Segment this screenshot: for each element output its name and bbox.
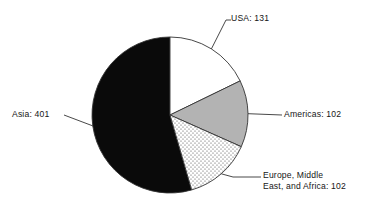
leader-line-usa [211,20,231,49]
leader-line-americas [248,114,282,115]
pie-label-emea: Europe, Middle East, and Africa: 102 [263,170,346,192]
pie-label-emea-line2: East, and Africa: 102 [263,181,346,192]
pie-label-emea-line1: Europe, Middle [263,170,323,180]
leader-line-asia [64,115,93,126]
pie-label-usa: USA: 131 [231,13,269,24]
pie-label-americas: Americas: 102 [284,109,341,120]
leader-line-emea [221,174,261,177]
pie-label-asia: Asia: 401 [12,109,49,120]
pie-chart-figure: USA: 131 Americas: 102 Asia: 401 Europe,… [0,0,368,210]
